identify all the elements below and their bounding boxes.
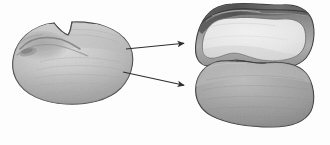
diagram-canvas	[0, 0, 330, 145]
bean-seed-diagram: Bean seed shown whole and separated into…	[0, 0, 330, 145]
upper-half-object	[192, 0, 318, 72]
